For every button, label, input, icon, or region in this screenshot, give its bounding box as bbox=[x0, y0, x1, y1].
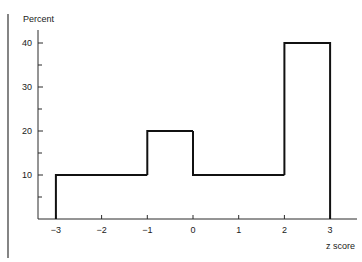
x-axis-label: z score bbox=[326, 241, 355, 251]
y-tick-label: 30 bbox=[22, 82, 32, 92]
histogram-bar bbox=[193, 131, 284, 175]
y-axis-label: Percent bbox=[23, 14, 55, 24]
ticks: 10203040−3−2−10123 bbox=[22, 38, 333, 235]
histogram-outline bbox=[56, 43, 330, 219]
x-tick-label: 3 bbox=[328, 225, 333, 235]
x-tick-label: 2 bbox=[282, 225, 287, 235]
histogram-bar bbox=[147, 131, 193, 175]
x-tick-label: −2 bbox=[96, 225, 106, 235]
axes bbox=[38, 30, 357, 219]
y-tick-label: 10 bbox=[22, 170, 32, 180]
x-tick-label: −1 bbox=[142, 225, 152, 235]
y-tick-label: 40 bbox=[22, 38, 32, 48]
x-tick-label: 1 bbox=[236, 225, 241, 235]
x-tick-label: 0 bbox=[190, 225, 195, 235]
histogram-bar bbox=[284, 43, 330, 219]
x-tick-label: −3 bbox=[51, 225, 61, 235]
y-tick-label: 20 bbox=[22, 126, 32, 136]
histogram-bar bbox=[56, 175, 147, 219]
histogram-chart: Percent z score 10203040−3−2−10123 bbox=[0, 0, 362, 262]
